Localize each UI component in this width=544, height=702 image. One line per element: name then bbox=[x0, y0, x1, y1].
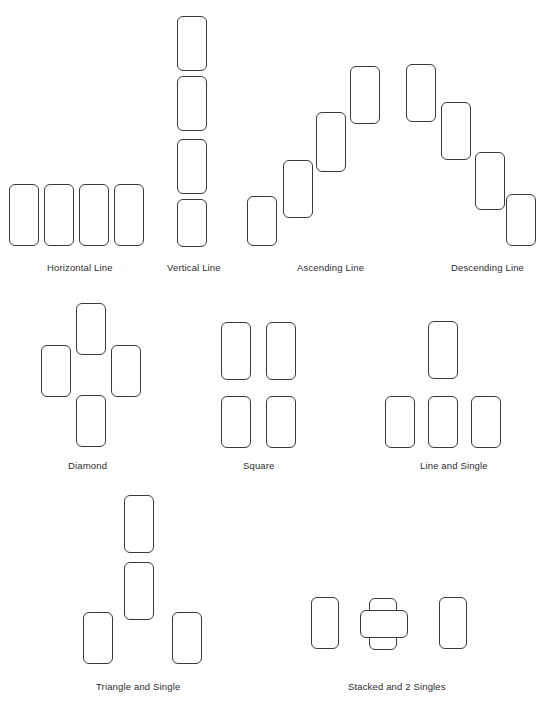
shape-card[interactable] bbox=[41, 345, 71, 397]
shape-card[interactable] bbox=[111, 345, 141, 397]
shape-card[interactable] bbox=[428, 321, 458, 379]
shape-card[interactable] bbox=[385, 396, 415, 448]
shape-card[interactable] bbox=[439, 597, 467, 649]
shape-card[interactable] bbox=[83, 612, 113, 664]
shape-card[interactable] bbox=[350, 66, 380, 124]
shape-card[interactable] bbox=[79, 184, 109, 246]
pattern-label-stacked-and-2-singles: Stacked and 2 Singles bbox=[348, 681, 446, 692]
shape-card[interactable] bbox=[475, 152, 505, 210]
shape-card[interactable] bbox=[428, 396, 458, 448]
pattern-label-triangle-and-single: Triangle and Single bbox=[96, 681, 180, 692]
shape-card[interactable] bbox=[266, 322, 296, 380]
pattern-label-square: Square bbox=[243, 460, 275, 471]
shape-card[interactable] bbox=[177, 16, 207, 71]
pattern-label-descending-line: Descending Line bbox=[451, 262, 524, 273]
shape-card[interactable] bbox=[124, 495, 154, 553]
pattern-label-horizontal-line: Horizontal Line bbox=[47, 262, 113, 273]
pattern-label-line-and-single: Line and Single bbox=[420, 460, 488, 471]
shape-card[interactable] bbox=[9, 184, 39, 246]
shape-card[interactable] bbox=[506, 194, 536, 246]
shape-card[interactable] bbox=[172, 612, 202, 664]
pattern-label-diamond: Diamond bbox=[68, 460, 107, 471]
shape-card[interactable] bbox=[266, 396, 296, 448]
shape-card[interactable] bbox=[283, 160, 313, 218]
shape-card[interactable] bbox=[177, 76, 207, 131]
shape-card[interactable] bbox=[221, 322, 251, 380]
shape-card[interactable] bbox=[471, 396, 501, 448]
shape-card[interactable] bbox=[311, 597, 339, 649]
shape-card[interactable] bbox=[247, 196, 277, 246]
shape-card[interactable] bbox=[76, 395, 106, 447]
shape-card[interactable] bbox=[76, 303, 106, 355]
shape-card[interactable] bbox=[360, 610, 408, 638]
shape-card[interactable] bbox=[124, 562, 154, 620]
shape-card[interactable] bbox=[177, 199, 207, 247]
shape-card[interactable] bbox=[44, 184, 74, 246]
pattern-label-ascending-line: Ascending Line bbox=[297, 262, 364, 273]
shape-card[interactable] bbox=[221, 396, 251, 448]
shape-card[interactable] bbox=[406, 64, 436, 122]
shape-card[interactable] bbox=[441, 102, 471, 160]
pattern-label-vertical-line: Vertical Line bbox=[167, 262, 221, 273]
diagram-canvas: Horizontal LineVertical LineAscending Li… bbox=[0, 0, 544, 702]
shape-card[interactable] bbox=[114, 184, 144, 246]
shape-card[interactable] bbox=[177, 139, 207, 194]
shape-card[interactable] bbox=[316, 112, 346, 172]
